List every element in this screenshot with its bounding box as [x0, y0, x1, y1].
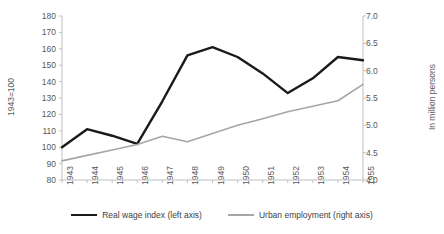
legend-swatch-icon [71, 214, 97, 217]
chart-legend: Real wage index (left axis)Urban employm… [0, 210, 444, 220]
chart-container: 1943=100 In million persons 180170160150… [0, 0, 444, 234]
left-tick-label: 100 [10, 143, 56, 151]
axis-decorations [59, 16, 366, 183]
plot-svg [62, 16, 363, 180]
left-tick-label: 150 [10, 61, 56, 69]
left-tick-label: 90 [10, 160, 56, 168]
right-tick-label: 7.0 [366, 12, 406, 20]
left-tick-label: 170 [10, 28, 56, 36]
legend-label: Real wage index (left axis) [102, 210, 202, 220]
right-tick-label: 5.0 [366, 121, 406, 129]
series-line-1 [62, 84, 363, 161]
left-tick-label: 130 [10, 94, 56, 102]
left-tick-label: 160 [10, 45, 56, 53]
right-tick-label: 4.5 [366, 149, 406, 157]
left-tick-label: 140 [10, 78, 56, 86]
left-tick-label: 80 [10, 176, 56, 184]
x-tick-label: 1955 [367, 166, 375, 185]
right-axis-title: In million persons [427, 61, 437, 133]
left-tick-label: 120 [10, 110, 56, 118]
right-tick-label: 5.5 [366, 94, 406, 102]
legend-label: Urban employment (right axis) [259, 210, 373, 220]
left-tick-label: 110 [10, 127, 56, 135]
series-lines [62, 47, 363, 161]
left-tick-label: 180 [10, 12, 56, 20]
right-tick-label: 6.5 [366, 39, 406, 47]
legend-swatch-icon [228, 214, 254, 216]
legend-item[interactable]: Real wage index (left axis) [71, 210, 202, 220]
plot-area [62, 16, 363, 180]
right-tick-label: 6.0 [366, 67, 406, 75]
series-line-0 [62, 47, 363, 147]
legend-item[interactable]: Urban employment (right axis) [228, 210, 373, 220]
